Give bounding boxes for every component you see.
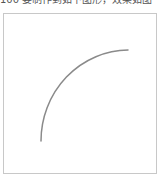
quarter-arc xyxy=(41,50,128,141)
arc-canvas xyxy=(0,0,167,181)
